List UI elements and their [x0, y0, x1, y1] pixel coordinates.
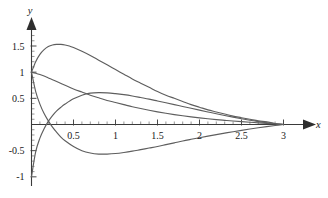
x-tick-label: 0.5 — [67, 130, 80, 141]
y-tick-label: 1.5 — [12, 41, 25, 52]
y-axis-arrowhead — [27, 17, 37, 30]
curve-1 — [32, 44, 284, 124]
minor-tick-marks — [32, 36, 276, 172]
y-tick-label: 1 — [20, 67, 25, 78]
x-axis-arrowhead — [303, 120, 316, 130]
y-axis — [27, 17, 37, 186]
y-tick-label: -1 — [16, 171, 24, 182]
chart-plot-area: 0.511.522.53 1.510.5-0.5-1 — [0, 0, 328, 198]
curve-2 — [32, 72, 284, 124]
y-tick-label: 0.5 — [12, 93, 25, 104]
curve-4 — [32, 72, 284, 154]
y-tick-label: -0.5 — [9, 145, 25, 156]
x-axis-tick-labels: 0.511.522.53 — [67, 130, 286, 141]
x-tick-label: 2 — [197, 130, 202, 141]
x-tick-label: 1.5 — [151, 130, 164, 141]
data-curves — [32, 44, 284, 176]
x-tick-label: 3 — [281, 130, 286, 141]
chart-figure: 0.511.522.53 1.510.5-0.5-1 x y — [0, 0, 328, 198]
x-tick-label: 2.5 — [235, 130, 248, 141]
x-tick-label: 1 — [113, 130, 118, 141]
y-axis-tick-labels: 1.510.5-0.5-1 — [9, 41, 25, 183]
